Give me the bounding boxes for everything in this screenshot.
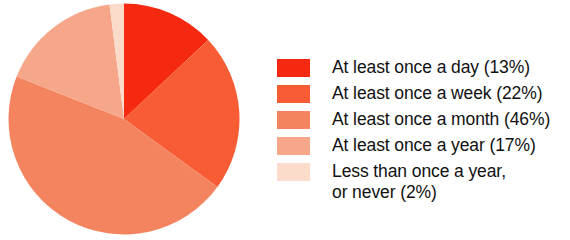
legend-item-at-least-once-a-year: At least once a year (17%) bbox=[277, 135, 567, 156]
legend-swatch-at-least-once-a-month bbox=[277, 111, 310, 129]
legend-label-at-least-once-a-day: At least once a day (13%) bbox=[332, 57, 567, 78]
legend-swatch-less-than-once-a-year-or-never bbox=[277, 163, 310, 181]
legend-label-less-than-once-a-year-or-never: Less than once a year, or never (2%) bbox=[332, 161, 567, 203]
legend-swatch-at-least-once-a-day bbox=[277, 59, 310, 77]
legend-item-at-least-once-a-day: At least once a day (13%) bbox=[277, 57, 567, 78]
legend-label-at-least-once-a-year: At least once a year (17%) bbox=[332, 135, 567, 156]
legend-item-less-than-once-a-year-or-never: Less than once a year, or never (2%) bbox=[277, 161, 567, 203]
pie-chart-figure: At least once a day (13%) At least once … bbox=[0, 0, 570, 240]
legend-item-at-least-once-a-week: At least once a week (22%) bbox=[277, 83, 567, 104]
legend-label-at-least-once-a-week: At least once a week (22%) bbox=[332, 83, 567, 104]
pie-svg bbox=[8, 3, 240, 235]
legend-swatch-at-least-once-a-week bbox=[277, 85, 310, 103]
pie-slice-group bbox=[8, 3, 239, 234]
legend-label-at-least-once-a-month: At least once a month (46%) bbox=[332, 109, 567, 130]
chart-legend: At least once a day (13%) At least once … bbox=[277, 57, 567, 203]
pie-chart-graphic bbox=[8, 3, 240, 235]
legend-item-at-least-once-a-month: At least once a month (46%) bbox=[277, 109, 567, 130]
legend-swatch-at-least-once-a-year bbox=[277, 137, 310, 155]
